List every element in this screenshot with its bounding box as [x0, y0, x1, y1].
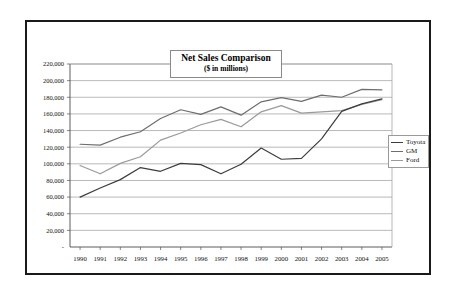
gridlines-group — [67, 64, 392, 230]
x-axis-tick-label: 1994 — [154, 255, 168, 262]
x-axis-tick-label: 2002 — [315, 255, 329, 262]
y-axis-tick-label: 200,000 — [43, 77, 64, 84]
chart-figure-frame: 220,000200,000180,000160,000140,000120,0… — [25, 20, 431, 275]
y-axis-zero-label: - — [62, 243, 64, 250]
x-axis-tick-label: 2000 — [275, 255, 289, 262]
y-axis-tick-label: 100,000 — [43, 160, 64, 167]
y-axis-tick-label: 40,000 — [46, 210, 64, 217]
legend-label-toyota: Toyota — [406, 138, 425, 147]
x-axis-tick-label: 2005 — [375, 255, 389, 262]
data-series-group — [80, 89, 382, 197]
legend-item-ford[interactable]: Ford — [391, 156, 425, 165]
legend-label-gm: GM — [406, 147, 417, 156]
x-axis-tick-label: 1993 — [134, 255, 148, 262]
x-axis-tick-label: 2001 — [295, 255, 309, 262]
chart-area: 220,000200,000180,000160,000140,000120,0… — [27, 22, 429, 273]
x-axis-tick-label: 1997 — [214, 255, 228, 262]
chart-legend: Toyota GM Ford — [388, 135, 429, 168]
legend-line-swatch-gm — [391, 151, 403, 152]
y-axis-tick-label: 120,000 — [43, 144, 64, 151]
y-axis-tick-label: 160,000 — [43, 110, 64, 117]
x-axis-tick-label: 1990 — [73, 255, 87, 262]
x-axis-tick-label: 1991 — [93, 255, 107, 262]
x-axis-tick-label: 2004 — [355, 255, 369, 262]
x-axis-tick-label: 1996 — [194, 255, 208, 262]
series-line-gm — [80, 89, 382, 145]
y-axis-tick-label: 140,000 — [43, 127, 64, 134]
chart-title-box: Net Sales Comparison ($ in millions) — [170, 50, 282, 78]
legend-label-ford: Ford — [406, 156, 419, 165]
legend-item-toyota[interactable]: Toyota — [391, 138, 425, 147]
axis-lines — [70, 64, 392, 250]
y-axis-tick-label: 220,000 — [43, 60, 64, 67]
x-axis-tick-label: 1992 — [114, 255, 128, 262]
legend-line-swatch-toyota — [391, 142, 403, 143]
x-axis-tick-labels: 1990199119921993199419951996199719981999… — [73, 255, 389, 262]
y-axis-tick-label: 80,000 — [46, 177, 64, 184]
y-axis-tick-label: 20,000 — [46, 227, 64, 234]
chart-title: Net Sales Comparison — [175, 53, 277, 64]
x-axis-tick-label: 2003 — [335, 255, 349, 262]
y-axis-tick-labels: 220,000200,000180,000160,000140,000120,0… — [43, 60, 64, 250]
x-axis-tick-label: 1998 — [234, 255, 248, 262]
legend-item-gm[interactable]: GM — [391, 147, 425, 156]
legend-line-swatch-ford — [391, 160, 403, 161]
chart-subtitle: ($ in millions) — [175, 64, 277, 74]
x-axis-tick-label: 1995 — [174, 255, 188, 262]
y-axis-tick-label: 180,000 — [43, 94, 64, 101]
x-axis-tick-label: 1999 — [254, 255, 268, 262]
y-axis-tick-label: 60,000 — [46, 193, 64, 200]
